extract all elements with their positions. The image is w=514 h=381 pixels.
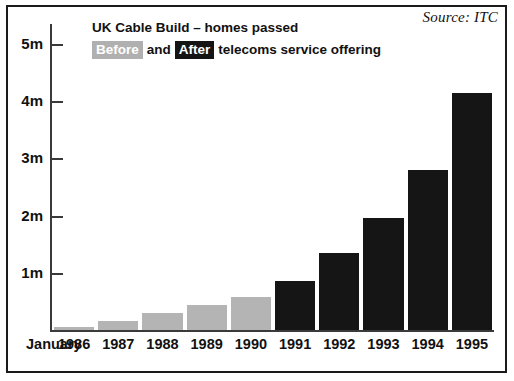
y-axis-tick-label: 5m	[21, 35, 43, 52]
x-axis-label-1994: 1994	[406, 336, 450, 352]
bar-1993	[363, 218, 403, 330]
chart-figure: Source: ITC UK Cable Build – homes passe…	[0, 0, 514, 381]
x-axis-label-1995: 1995	[450, 336, 494, 352]
x-axis-label-1987: 1987	[96, 336, 140, 352]
x-axis-label-1991: 1991	[273, 336, 317, 352]
x-axis-label-1993: 1993	[361, 336, 405, 352]
y-axis-tick-label: 2m	[21, 207, 43, 224]
y-axis-tick-label: 1m	[21, 264, 43, 281]
x-axis-label-1988: 1988	[140, 336, 184, 352]
x-axis-label-1992: 1992	[317, 336, 361, 352]
bar-1991	[275, 281, 315, 330]
y-axis-tick-label: 3m	[21, 149, 43, 166]
plot-area: 1m2m3m4m5m	[50, 24, 494, 332]
bar-1986	[54, 327, 94, 330]
y-axis-tick-label: 4m	[21, 92, 43, 109]
x-axis-label-1989: 1989	[185, 336, 229, 352]
x-axis-line	[50, 330, 494, 332]
bar-1987	[98, 321, 138, 330]
x-axis-labels: January 19861987198819891990199119921993…	[0, 336, 501, 360]
bar-1992	[319, 253, 359, 330]
bar-1994	[408, 170, 448, 330]
x-axis-label-1986: 1986	[52, 336, 96, 352]
bar-1990	[231, 297, 271, 330]
bar-1988	[142, 313, 182, 330]
x-axis-label-1990: 1990	[229, 336, 273, 352]
bar-1989	[187, 305, 227, 330]
bar-1995	[452, 93, 492, 330]
bar-series-container	[52, 24, 494, 330]
